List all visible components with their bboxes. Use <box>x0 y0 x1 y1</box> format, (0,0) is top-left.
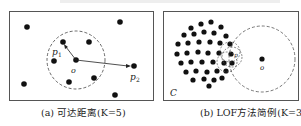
panel-reachability-distance: p 1 o p 2 <box>9 11 154 101</box>
svg-text:o: o <box>71 66 76 75</box>
cropped-top-text <box>60 0 280 3</box>
svg-text:p: p <box>234 51 238 59</box>
caption-b: (b) LOF方法简例(K=3) <box>200 105 301 119</box>
lof-diagram: p o C <box>164 12 300 102</box>
reachability-diagram: p 1 o p 2 <box>10 12 155 102</box>
svg-text:2: 2 <box>136 76 140 83</box>
caption-a: (a) 可达距离(K=5) <box>41 105 126 119</box>
panel-lof-example: p o C <box>163 11 299 101</box>
svg-text:1: 1 <box>58 51 62 58</box>
svg-text:o: o <box>260 64 264 72</box>
svg-text:C: C <box>170 88 177 98</box>
